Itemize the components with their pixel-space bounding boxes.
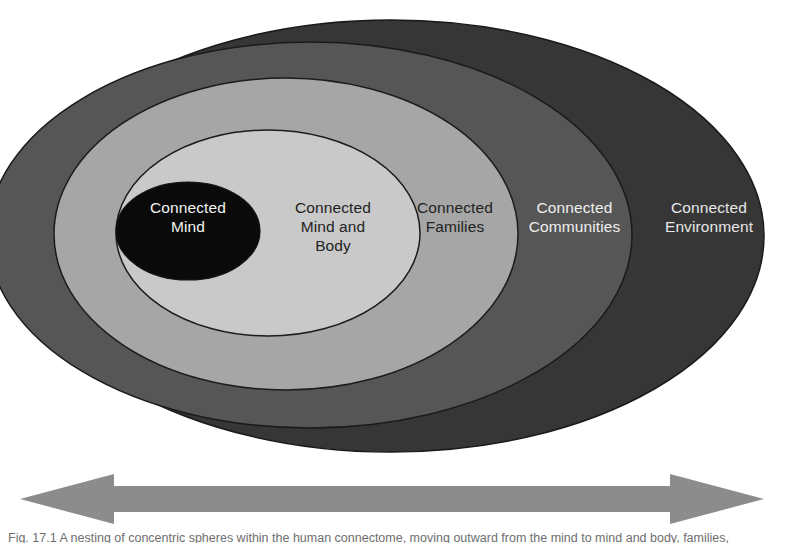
nested-ellipse-diagram [0,0,787,543]
ellipse-connected-mind [116,182,260,280]
figure-container: Connected Mind Connected Mind and Body C… [0,0,787,543]
figure-caption: Fig. 17.1 A nesting of concentric sphere… [8,531,783,543]
